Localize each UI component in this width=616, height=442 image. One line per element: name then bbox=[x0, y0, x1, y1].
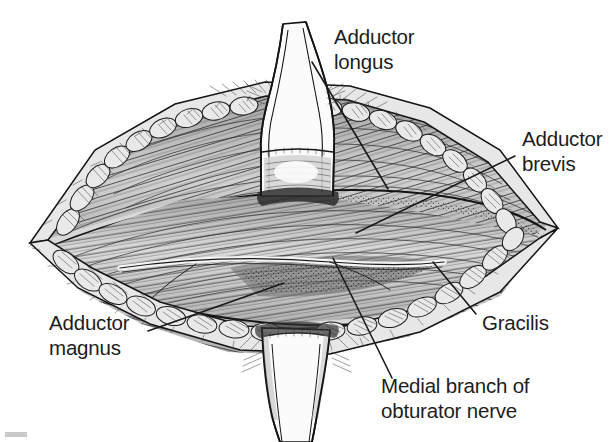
label-medial-branch-line-2: obturator nerve bbox=[381, 399, 517, 422]
corner-mark bbox=[5, 432, 27, 437]
label-adductor-brevis-line-1: Adductor bbox=[522, 127, 603, 150]
label-gracilis-line-1: Gracilis bbox=[482, 311, 549, 334]
label-adductor-magnus: Adductor magnus bbox=[49, 311, 135, 359]
label-gracilis: Gracilis bbox=[482, 311, 549, 334]
tendon-upper-highlight bbox=[274, 161, 318, 183]
label-adductor-longus-line-1: Adductor bbox=[334, 25, 415, 48]
label-adductor-magnus-line-2: magnus bbox=[49, 336, 121, 359]
label-adductor-longus: Adductor longus bbox=[334, 25, 420, 73]
label-adductor-brevis: Adductor brevis bbox=[522, 127, 608, 175]
anatomical-figure: Adductor longus Adductor brevis Gracilis… bbox=[0, 0, 616, 442]
label-adductor-longus-line-2: longus bbox=[334, 50, 393, 73]
illustration-canvas: Adductor longus Adductor brevis Gracilis… bbox=[0, 0, 616, 442]
label-adductor-brevis-line-2: brevis bbox=[522, 152, 575, 175]
label-medial-branch-obturator-nerve: Medial branch of obturator nerve bbox=[381, 374, 535, 422]
label-adductor-magnus-line-1: Adductor bbox=[49, 311, 130, 334]
label-medial-branch-line-1: Medial branch of bbox=[381, 374, 530, 397]
